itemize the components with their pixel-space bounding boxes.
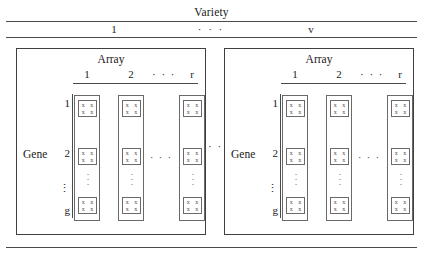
array-label-ellipsis-left: · · · bbox=[151, 68, 177, 80]
spot-gene2-array2-left: x x x x bbox=[122, 148, 141, 165]
spot-geneg-array1-left: x x x x bbox=[78, 197, 97, 214]
array-label-r-right: r bbox=[387, 68, 413, 80]
spot-mark: x bbox=[90, 157, 93, 163]
spot-mark: x bbox=[90, 199, 93, 205]
spot-mark: x bbox=[195, 199, 198, 205]
spot-gene1-array2-right: x x x x bbox=[330, 100, 349, 117]
spot-mark: x bbox=[334, 150, 337, 156]
spot-gene1-array2-left: x x x x bbox=[122, 100, 141, 117]
spot-mark: x bbox=[403, 150, 406, 156]
spot-mark: x bbox=[298, 157, 301, 163]
spot-geneg-arrayr-right: x x x x bbox=[391, 197, 410, 214]
spot-mark: x bbox=[90, 109, 93, 115]
array-header-rule-right bbox=[281, 83, 406, 84]
variety-heading: Variety bbox=[0, 6, 423, 18]
column-vertical-dots: · · · bbox=[327, 172, 353, 187]
array-column-labels-right: 1 2 · · · r bbox=[225, 68, 413, 82]
spot-mark: x bbox=[90, 206, 93, 212]
spot-mark: x bbox=[395, 199, 398, 205]
gene-axis-rule-right bbox=[280, 94, 281, 218]
spot-mark: x bbox=[126, 150, 129, 156]
spot-mark: x bbox=[298, 102, 301, 108]
spot-mark: x bbox=[342, 109, 345, 115]
spot-mark: x bbox=[403, 109, 406, 115]
spot-gene2-array1-left: x x x x bbox=[78, 148, 97, 165]
dot: · bbox=[327, 182, 353, 187]
spot-geneg-arrayr-left: x x x x bbox=[183, 197, 202, 214]
rule-bottom bbox=[6, 247, 417, 248]
spot-gene2-array2-right: x x x x bbox=[330, 148, 349, 165]
spot-mark: x bbox=[395, 102, 398, 108]
spot-mark: x bbox=[195, 150, 198, 156]
gene-tick-2-left: 2 bbox=[58, 148, 70, 158]
column-vertical-dots: · · · bbox=[180, 172, 206, 187]
spot-mark: x bbox=[126, 109, 129, 115]
spot-mark: x bbox=[342, 150, 345, 156]
variety-panel-v: Array 1 2 · · · r Gene 1 2 ⋮ g x x x x x bbox=[224, 48, 414, 235]
spot-mark: x bbox=[82, 109, 85, 115]
spot-mark: x bbox=[82, 199, 85, 205]
variety-panel-1: Array 1 2 · · · r Gene 1 2 ⋮ g x x x x x bbox=[16, 48, 206, 235]
spot-mark: x bbox=[90, 102, 93, 108]
spot-mark: x bbox=[395, 206, 398, 212]
spot-mark: x bbox=[290, 199, 293, 205]
array-column-1-right: x x x x x x x x · · · x x x x bbox=[282, 95, 308, 221]
spot-mark: x bbox=[290, 206, 293, 212]
spot-mark: x bbox=[195, 157, 198, 163]
spot-mark: x bbox=[187, 206, 190, 212]
gene-axis-label-right: Gene bbox=[231, 148, 255, 160]
spot-mark: x bbox=[334, 109, 337, 115]
array-header-rule-left bbox=[73, 83, 198, 84]
spot-mark: x bbox=[126, 102, 129, 108]
column-vertical-dots: · · · bbox=[75, 172, 101, 187]
spot-mark: x bbox=[342, 206, 345, 212]
spot-geneg-array2-left: x x x x bbox=[122, 197, 141, 214]
spot-gene2-arrayr-right: x x x x bbox=[391, 148, 410, 165]
spot-mark: x bbox=[187, 102, 190, 108]
rule-middle bbox=[6, 37, 417, 38]
spot-mark: x bbox=[395, 157, 398, 163]
spot-mark: x bbox=[334, 157, 337, 163]
column-vertical-dots: · · · bbox=[119, 172, 145, 187]
gene-axis-rule-left bbox=[72, 94, 73, 218]
spot-mark: x bbox=[187, 150, 190, 156]
array-label-r-left: r bbox=[179, 68, 205, 80]
spot-mark: x bbox=[395, 150, 398, 156]
array-column-2-right: x x x x x x x x · · · x x x x bbox=[326, 95, 352, 221]
variety-label-ellipsis: · · · bbox=[191, 23, 231, 35]
variety-label-v: v bbox=[291, 23, 331, 35]
spot-mark: x bbox=[298, 109, 301, 115]
spot-mark: x bbox=[134, 102, 137, 108]
spot-mark: x bbox=[290, 109, 293, 115]
array-heading-right: Array bbox=[225, 53, 413, 65]
spot-mark: x bbox=[126, 199, 129, 205]
gene-axis-label-left: Gene bbox=[23, 148, 47, 160]
spot-mark: x bbox=[187, 199, 190, 205]
spot-gene2-arrayr-left: x x x x bbox=[183, 148, 202, 165]
spot-mark: x bbox=[395, 109, 398, 115]
spot-gene1-arrayr-left: x x x x bbox=[183, 100, 202, 117]
spot-mark: x bbox=[134, 157, 137, 163]
spot-mark: x bbox=[403, 102, 406, 108]
spot-mark: x bbox=[298, 206, 301, 212]
spot-mark: x bbox=[298, 199, 301, 205]
spot-geneg-array1-right: x x x x bbox=[286, 197, 305, 214]
dot: · bbox=[119, 182, 145, 187]
spot-mark: x bbox=[195, 102, 198, 108]
array-columns-ellipsis-left: · · · bbox=[150, 152, 173, 163]
gene-tick-labels-right: 1 2 ⋮ g bbox=[266, 95, 278, 215]
spot-gene1-arrayr-right: x x x x bbox=[391, 100, 410, 117]
gene-tick-g-left: g bbox=[58, 205, 70, 215]
variety-label-1: 1 bbox=[94, 23, 134, 35]
column-vertical-dots: · · · bbox=[388, 172, 414, 187]
array-label-ellipsis-right: · · · bbox=[359, 68, 385, 80]
array-column-1-left: x x x x x x x x · · · x x x x bbox=[74, 95, 100, 221]
spot-geneg-array2-right: x x x x bbox=[330, 197, 349, 214]
spot-gene1-array1-right: x x x x bbox=[286, 100, 305, 117]
dot: · bbox=[283, 182, 309, 187]
array-column-2-left: x x x x x x x x · · · x x x x bbox=[118, 95, 144, 221]
spot-mark: x bbox=[290, 150, 293, 156]
rule-top bbox=[6, 21, 417, 22]
spot-mark: x bbox=[82, 157, 85, 163]
dot: · bbox=[388, 182, 414, 187]
